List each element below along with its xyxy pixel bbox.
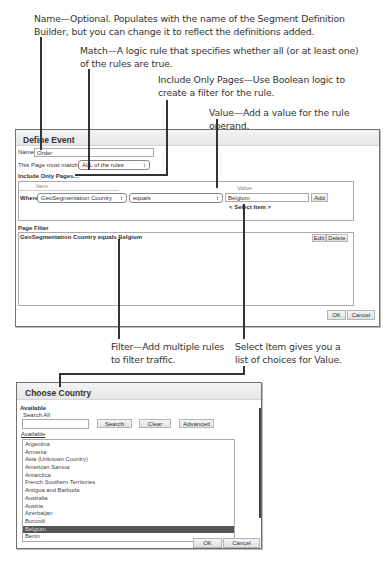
country-item[interactable]: Antigua and Barbuda xyxy=(23,487,234,495)
search-input[interactable] xyxy=(22,419,89,429)
country-item[interactable]: Asia (Unknown Country) xyxy=(23,456,234,464)
filter-rule-value: Belgium xyxy=(118,234,142,240)
available-heading: Available xyxy=(20,405,46,411)
dialog-title: Define Event xyxy=(23,135,75,145)
country-item[interactable]: Burundi xyxy=(23,518,234,526)
country-item[interactable]: French Southern Territories xyxy=(23,479,234,487)
country-item[interactable]: Argentina xyxy=(23,441,234,449)
country-list[interactable]: Argentina Armenia Asia (Unknown Country)… xyxy=(22,439,235,542)
header-divider xyxy=(19,190,119,191)
country-item[interactable]: Azerbaijan xyxy=(23,510,234,518)
country-item[interactable]: Australia xyxy=(23,495,234,503)
define-event-dialog: Define Event Name Order This Page must m… xyxy=(15,129,380,327)
value-column-header: Value xyxy=(237,185,252,191)
filter-rule-text: GeoSegmentation Country equals xyxy=(20,234,118,240)
select-arrows-icon: ↕ xyxy=(120,194,123,202)
delete-button[interactable]: Delete xyxy=(326,234,348,242)
search-all-label: Search All xyxy=(23,412,50,418)
search-button[interactable]: Search xyxy=(97,419,132,428)
callout-name-line-2: Builder, but you can change it to reflec… xyxy=(34,25,345,38)
callout-filter-line-2: to filter traffic. xyxy=(111,353,224,366)
dialog-title: Choose Country xyxy=(25,388,91,398)
operator-select[interactable]: equals ↕ xyxy=(129,193,223,203)
cancel-button[interactable]: Cancel xyxy=(223,538,260,548)
include-only-pages-heading: Include Only Pages... xyxy=(18,173,78,179)
leader-line-include-h xyxy=(75,174,168,176)
page-filter-heading: Page Filter xyxy=(18,225,49,231)
ok-button[interactable]: OK xyxy=(193,538,222,548)
callout-match-line-1: Match—A logic rule that specifies whethe… xyxy=(80,44,359,57)
leader-line-select-item-top xyxy=(243,204,245,339)
value-input[interactable]: Belgium xyxy=(225,193,309,202)
filter-rule: GeoSegmentation Country equals Belgium xyxy=(20,234,142,240)
callout-name-line-1: Name—Optional. Populates with the name o… xyxy=(34,12,345,25)
where-label: Where xyxy=(20,195,38,201)
country-item-selected[interactable]: Belgium xyxy=(23,526,234,534)
dialog-title-bar: Choose Country xyxy=(17,383,261,400)
country-item[interactable]: Antarctica xyxy=(23,472,234,480)
name-label: Name xyxy=(18,149,34,155)
leader-line-match xyxy=(88,69,90,170)
dialog-title-bar: Define Event xyxy=(16,130,379,146)
callout-include-line-2: create a filter for the rule. xyxy=(158,86,345,99)
country-item[interactable]: Austria xyxy=(23,503,234,511)
callout-select-item-line-2: list of choices for Value. xyxy=(235,353,342,366)
item-select[interactable]: GeoSegmentation Country ↕ xyxy=(37,193,127,203)
name-input[interactable]: Order xyxy=(34,148,154,157)
page-filter-panel: GeoSegmentation Country equals Belgium E… xyxy=(18,232,354,306)
leader-line-include-v xyxy=(166,100,168,176)
clear-button[interactable]: Clear xyxy=(139,419,171,428)
select-arrows-icon: ↕ xyxy=(216,194,219,202)
callout-include-line-1: Include Only Pages—Use Boolean logic to xyxy=(158,73,345,86)
callout-filter: Filter—Add multiple rules to filter traf… xyxy=(111,340,224,366)
list-label: Available xyxy=(21,431,45,437)
leader-line-filter xyxy=(118,239,120,339)
dialog-scrollbar[interactable] xyxy=(259,408,261,518)
ok-button[interactable]: OK xyxy=(327,310,346,320)
operator-select-value: equals xyxy=(133,195,151,201)
select-item-link[interactable]: < Select Item > xyxy=(229,204,271,210)
callout-match: Match—A logic rule that specifies whethe… xyxy=(80,44,359,70)
advanced-button[interactable]: Advanced xyxy=(179,419,214,428)
callout-select-item-line-1: Select Item gives you a xyxy=(235,340,342,353)
choose-country-dialog: Choose Country Available Search All Sear… xyxy=(16,382,262,549)
item-select-value: GeoSegmentation Country xyxy=(41,195,112,201)
country-item[interactable]: Armenia xyxy=(23,449,234,457)
match-label: This Page must match: xyxy=(18,162,79,168)
item-column-header: Item xyxy=(36,183,48,189)
callout-select-item: Select Item gives you a list of choices … xyxy=(235,340,342,366)
leader-line-name xyxy=(40,37,42,150)
callout-filter-line-1: Filter—Add multiple rules xyxy=(111,340,224,353)
leader-line-select-item-h xyxy=(59,373,245,375)
callout-match-line-2: of the rules are true. xyxy=(80,57,359,70)
country-item[interactable]: American Samoa xyxy=(23,464,234,472)
callout-include: Include Only Pages—Use Boolean logic to … xyxy=(158,73,345,99)
select-arrows-icon: ↕ xyxy=(143,161,146,169)
leader-line-choose-country xyxy=(59,373,61,387)
callout-name: Name—Optional. Populates with the name o… xyxy=(34,12,345,38)
leader-line-value xyxy=(216,119,218,188)
cancel-button[interactable]: Cancel xyxy=(347,310,375,320)
add-button[interactable]: Add xyxy=(311,193,328,202)
rule-panel: Item Value Where GeoSegmentation Country… xyxy=(18,181,354,221)
edit-button[interactable]: Edit xyxy=(312,234,326,242)
